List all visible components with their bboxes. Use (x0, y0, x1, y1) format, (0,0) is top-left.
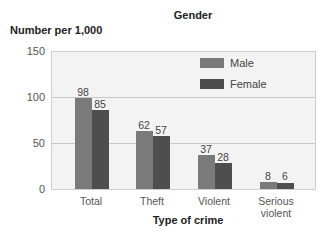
legend-swatch-female (200, 79, 224, 89)
x-tick-total: Total (61, 195, 121, 207)
x-axis-label: Type of crime (0, 214, 336, 226)
value-violent-female: 28 (213, 151, 233, 163)
legend-male: Male (200, 57, 254, 69)
legend-label-female: Female (230, 78, 267, 90)
bar-violent-female (215, 163, 232, 189)
y-tick-50: 50 (0, 137, 45, 149)
x-tick-violent: Violent (184, 195, 244, 207)
bar-serious-male (260, 182, 277, 189)
bar-total-male (75, 98, 92, 189)
value-total-female: 85 (90, 98, 110, 110)
bar-serious-female (277, 183, 294, 189)
bar-theft-male (136, 131, 153, 189)
bar-total-female (92, 110, 109, 189)
plot-area: Male Female 98 85 62 57 37 28 8 6 (51, 51, 316, 190)
value-serious-female: 6 (275, 170, 295, 182)
y-tick-150: 150 (0, 45, 45, 57)
y-tick-100: 100 (0, 91, 45, 103)
y-tick-0: 0 (0, 183, 45, 195)
value-theft-female: 57 (151, 124, 171, 136)
bar-theft-female (153, 136, 170, 189)
legend-label-male: Male (230, 57, 254, 69)
legend-female: Female (200, 78, 267, 90)
value-total-male: 98 (73, 86, 93, 98)
y-axis-label: Number per 1,000 (10, 24, 102, 36)
x-tick-theft: Theft (122, 195, 182, 207)
legend-swatch-male (200, 58, 224, 68)
chart-title: Gender (0, 9, 336, 21)
